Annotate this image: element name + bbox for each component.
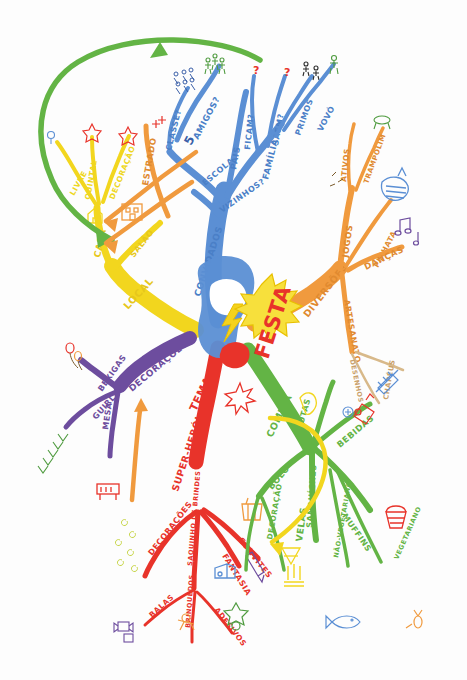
question-mark-icon-2: ? [284,66,290,79]
branch-tema[interactable]: TEMA SUPER-HERÓI DECORAÇÕES SAQUINHO DE … [114,348,274,648]
music-notes-icon [395,218,419,245]
star-burst-icon [225,383,255,414]
people-icon [152,116,166,128]
candy-icon [114,622,133,642]
sub-label-trampolim: TRAMPOLIM [362,133,387,185]
sub-label-balas: BALAS [147,593,175,620]
fish-icon [326,616,360,628]
sandwich-icon [282,548,300,564]
vegetable-icon [406,610,422,628]
sub-label-vegetariano: VEGETARIANO [393,505,424,560]
branch-diversoes[interactable]: DIVERSÕES JOGOS ATIVOS TRAMPOLIM PINHATA… [254,116,419,417]
mindmap-canvas: CONVIDADOS ESCOLA CLASSE? AMIGOS? 5 VIZI… [0,0,467,680]
branch-comida[interactable]: COMIDA BOLO DECORAÇÃO VELAS SANDUÍCHES N… [242,350,423,628]
sub-label-adesivos: ADESIVOS [212,606,248,648]
question-mark-icon-1: ? [253,64,259,77]
sub-label-ficam: FICAM? [243,113,256,150]
orange-arrow-up [132,404,141,500]
sub-label-pais: PAIS [228,146,242,171]
drawing-icon [343,407,353,417]
muffin-icon [386,506,406,528]
green-sweep-arrowhead-top [150,42,168,58]
orange-arrow-up-head [134,398,148,412]
mindmap-svg: CONVIDADOS ESCOLA CLASSE? AMIGOS? 5 VIZI… [0,0,467,680]
candles-icon [284,564,304,586]
sub-label-vovo: VOVÓ [314,103,337,132]
branch-local-trunk [112,266,196,330]
table-icon [97,484,119,500]
star-icon-1 [83,124,101,142]
garland-icon [38,434,68,473]
balloons-icon [66,343,82,370]
central-image[interactable]: FESTA [198,256,302,368]
confetti-icon [115,520,137,572]
branch-decoracoes[interactable]: DECORAÇÕES BEXIGAS GUIRLANDAS MESA [38,338,190,500]
sub-label-desenhos: DESENHOS [348,359,365,404]
balloon-icon [48,132,55,145]
pinata-icon [381,168,408,200]
sub-label-salao: SALÃO [128,227,156,259]
